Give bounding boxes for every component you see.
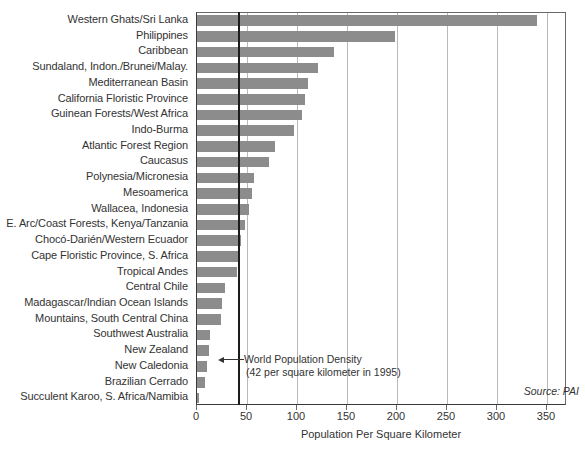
bar <box>197 94 305 105</box>
bar-row <box>197 139 565 155</box>
bar <box>197 361 207 372</box>
y-axis-label: Succulent Karoo, S. Africa/Namibia <box>0 389 192 405</box>
bar-row <box>197 233 565 249</box>
y-axis-label: Tropical Andes <box>0 264 192 280</box>
bar-row <box>197 170 565 186</box>
bar <box>197 173 254 184</box>
x-tick-label-50: 50 <box>240 410 252 422</box>
left-arrow-icon <box>218 355 244 364</box>
bar-series <box>197 13 565 404</box>
y-axis-label: Indo-Burma <box>0 122 192 138</box>
bar <box>197 31 395 42</box>
bar <box>197 157 269 168</box>
bar <box>197 125 294 136</box>
y-axis-label: Sundaland, Indon./Brunei/Malay. <box>0 59 192 75</box>
bar-row <box>197 312 565 328</box>
y-axis-label: Southwest Australia <box>0 326 192 342</box>
y-axis-label: California Floristic Province <box>0 91 192 107</box>
y-axis-label: Caucasus <box>0 153 192 169</box>
bar <box>197 204 249 215</box>
bar-row <box>197 296 565 312</box>
x-tick-label-150: 150 <box>337 410 355 422</box>
bar-row <box>197 154 565 170</box>
x-tick-label-0: 0 <box>193 410 199 422</box>
x-tick-label-250: 250 <box>437 410 455 422</box>
bar <box>197 47 334 58</box>
bar <box>197 251 239 262</box>
bar-row <box>197 217 565 233</box>
bar-row <box>197 390 565 406</box>
bar <box>197 298 222 309</box>
y-axis-label: E. Arc/Coast Forests, Kenya/Tanzania <box>0 216 192 232</box>
bar <box>197 330 210 341</box>
bar <box>197 283 225 294</box>
y-axis-label: Caribbean <box>0 43 192 59</box>
y-axis-label: Cape Floristic Province, S. Africa <box>0 248 192 264</box>
bar-row <box>197 202 565 218</box>
plot-area <box>196 12 566 405</box>
bar-row <box>197 44 565 60</box>
bar-row <box>197 265 565 281</box>
chart-figure: Western Ghats/Sri LankaPhilippinesCaribb… <box>0 0 585 457</box>
bar-row <box>197 29 565 45</box>
y-axis-label: Madagascar/Indian Ocean Islands <box>0 295 192 311</box>
bar-row <box>197 107 565 123</box>
y-axis-label: Atlantic Forest Region <box>0 138 192 154</box>
bar <box>197 15 537 26</box>
bar-row <box>197 249 565 265</box>
y-axis-label: Central Chile <box>0 279 192 295</box>
y-axis-label: Polynesia/Micronesia <box>0 169 192 185</box>
y-axis-label: Chocó-Darién/Western Ecuador <box>0 232 192 248</box>
x-axis-title: Population Per Square Kilometer <box>196 428 566 440</box>
y-axis-label: Western Ghats/Sri Lanka <box>0 12 192 28</box>
y-axis-label: New Zealand <box>0 342 192 358</box>
bar-row <box>197 327 565 343</box>
bar-row <box>197 186 565 202</box>
y-axis-label: Mediterranean Basin <box>0 75 192 91</box>
bar <box>197 345 209 356</box>
bar-row <box>197 92 565 108</box>
bar <box>197 78 308 89</box>
annotation-subtitle: (42 per square kilometer in 1995) <box>246 366 448 379</box>
y-axis-label: New Caledonia <box>0 358 192 374</box>
x-axis-tick-labels: 050100150200250300350 <box>196 410 566 426</box>
bar <box>197 141 275 152</box>
y-axis-label: Mountains, South Central China <box>0 311 192 327</box>
bar-row <box>197 13 565 29</box>
annotation-line-1: World Population Density <box>218 353 448 366</box>
world-population-density-line <box>238 12 240 405</box>
x-tick-label-200: 200 <box>387 410 405 422</box>
bar-row <box>197 76 565 92</box>
source-note: Source: PAI <box>524 385 579 397</box>
y-axis-label: Brazilian Cerrado <box>0 374 192 390</box>
bar <box>197 235 241 246</box>
x-tick-label-300: 300 <box>487 410 505 422</box>
bar <box>197 314 221 325</box>
x-tick-label-100: 100 <box>287 410 305 422</box>
bar <box>197 63 318 74</box>
bar <box>197 393 199 404</box>
y-axis-label: Wallacea, Indonesia <box>0 201 192 217</box>
bar <box>197 267 237 278</box>
y-axis-label: Philippines <box>0 28 192 44</box>
annotation-title: World Population Density <box>244 353 362 366</box>
bar-row <box>197 60 565 76</box>
bar <box>197 188 252 199</box>
bar-row <box>197 123 565 139</box>
y-axis-label: Mesoamerica <box>0 185 192 201</box>
y-axis-label: Guinean Forests/West Africa <box>0 106 192 122</box>
y-axis-category-labels: Western Ghats/Sri LankaPhilippinesCaribb… <box>0 12 192 405</box>
bar-row <box>197 280 565 296</box>
world-population-density-annotation: World Population Density (42 per square … <box>218 353 448 379</box>
x-tick-label-350: 350 <box>537 410 555 422</box>
bar <box>197 377 205 388</box>
bar <box>197 110 302 121</box>
